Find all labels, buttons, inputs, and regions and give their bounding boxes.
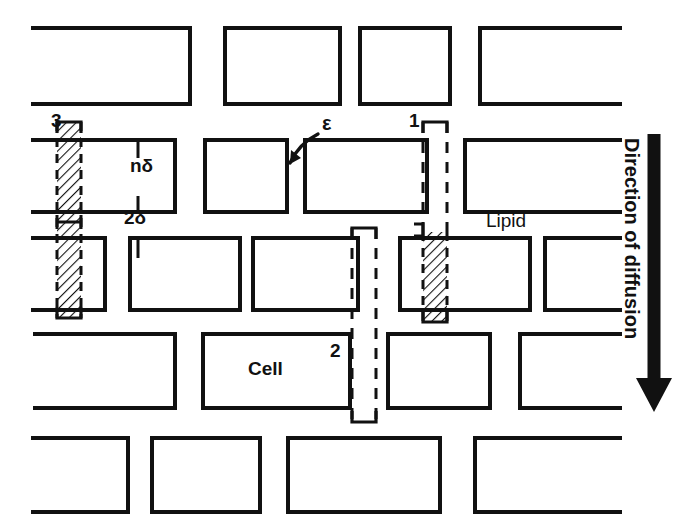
path-2-label: 2 [330,340,341,362]
cell-outline [205,140,287,212]
diffusion-diagram: 3 1 2 ε nδ 2δ Lipid Cell Direction of di… [0,0,690,532]
cell-outline [400,238,530,310]
cell-outline [480,28,620,104]
direction-of-diffusion-label: Direction of diffusion [620,138,643,339]
epsilon-label: ε [322,112,332,135]
diagram-canvas [0,0,690,532]
cell-outline [360,28,450,104]
cell-outline [33,28,190,104]
cell-outline [35,334,175,408]
cell-outline [388,334,490,408]
cell-outline [465,140,620,212]
two-delta-label: 2δ [124,207,146,229]
cell-label: Cell [248,358,283,380]
cell-outline [225,28,340,104]
cell-outline [305,140,427,212]
n-delta-label: nδ [130,155,153,177]
cell-outline [130,238,240,310]
diffusion-path-3 [57,122,81,318]
cell-outline [253,238,358,310]
cell-outline [545,238,620,310]
cell-outline [288,438,440,512]
cell-outline [152,438,260,512]
cell-outline [33,140,175,212]
path-1-label: 1 [409,110,420,132]
diffusion-path-1 [414,122,447,322]
diffusion-path-2 [352,228,376,422]
cell-grid-layer [33,28,620,512]
cell-outline [33,438,128,512]
cell-outline [520,334,620,408]
lipid-label: Lipid [486,210,526,232]
path-3-label: 3 [51,110,62,132]
cell-outline [475,438,620,512]
